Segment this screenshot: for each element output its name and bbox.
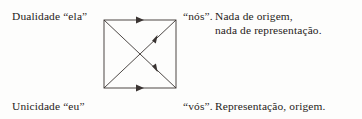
- figure-canvas: Dualidade “ela” “nós”. Nada de origem, n…: [0, 0, 362, 119]
- note-top-line-1: Nada de origem,: [215, 10, 293, 23]
- top-edge-arrow-icon: [136, 17, 144, 24]
- label-bottom-right: “vós”.: [183, 100, 213, 113]
- note-bottom-line-1: Representação, origem.: [215, 100, 326, 113]
- label-top-right: “nós”.: [183, 10, 213, 23]
- label-top-left: Dualidade “ela”: [12, 10, 87, 23]
- note-top-line-2: nada de representação.: [215, 24, 322, 37]
- descending-diagonal-arrow-icon: [152, 63, 159, 72]
- bottom-edge-arrow-icon: [136, 85, 144, 92]
- label-bottom-left: Unicidade “eu”: [12, 100, 85, 113]
- square-diagram: [98, 14, 184, 96]
